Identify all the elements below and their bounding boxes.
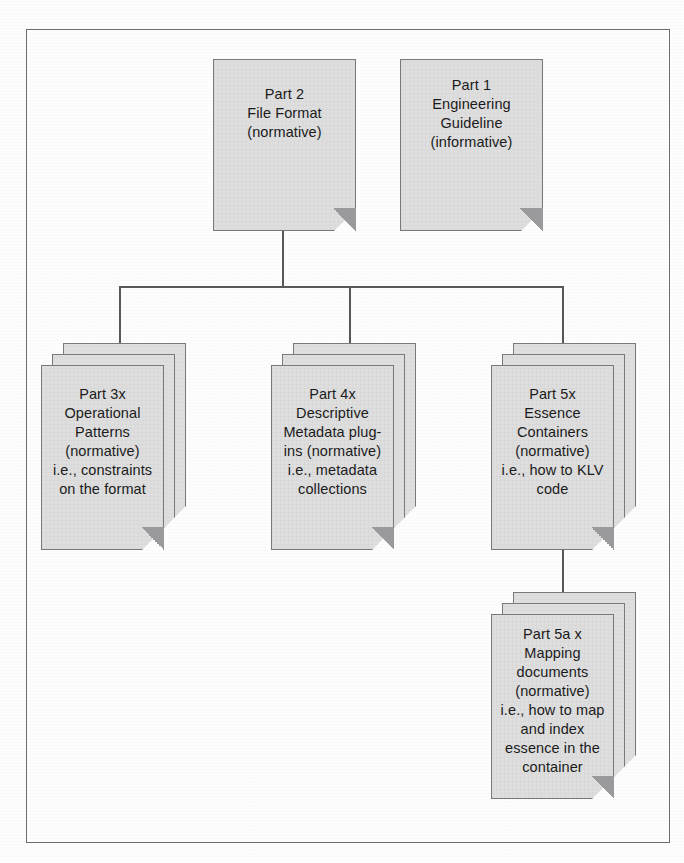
node-part2-label: Part 2 File Format (normative)	[213, 85, 356, 142]
node-part5x-label: Part 5x Essence Containers (normative) i…	[491, 385, 614, 499]
node-part4x-label: Part 4x Descriptive Metadata plug- ins (…	[271, 385, 394, 499]
connector-horizontal-bus	[120, 286, 564, 288]
node-part3x-label: Part 3x Operational Patterns (normative)…	[41, 385, 164, 499]
connector-bus-to-part4x	[349, 286, 351, 343]
connector-bus-to-part3x	[119, 286, 121, 343]
node-part3x-operational-patterns[interactable]: Part 3x Operational Patterns (normative)…	[41, 343, 186, 550]
node-part5ax-label: Part 5a x Mapping documents (normative) …	[491, 625, 614, 777]
node-part1-engineering-guideline[interactable]: Part 1 Engineering Guideline (informativ…	[400, 59, 543, 231]
node-part5ax-mapping-documents[interactable]: Part 5a x Mapping documents (normative) …	[491, 592, 636, 799]
connector-part5x-to-part5ax	[562, 549, 564, 593]
node-part4x-descriptive-metadata[interactable]: Part 4x Descriptive Metadata plug- ins (…	[271, 343, 416, 550]
node-part5x-essence-containers[interactable]: Part 5x Essence Containers (normative) i…	[491, 343, 636, 550]
node-part2-file-format[interactable]: Part 2 File Format (normative)	[213, 59, 356, 231]
node-part1-label: Part 1 Engineering Guideline (informativ…	[400, 76, 543, 152]
connector-bus-to-part5x	[562, 286, 564, 343]
connector-part2-to-bus	[282, 230, 284, 288]
